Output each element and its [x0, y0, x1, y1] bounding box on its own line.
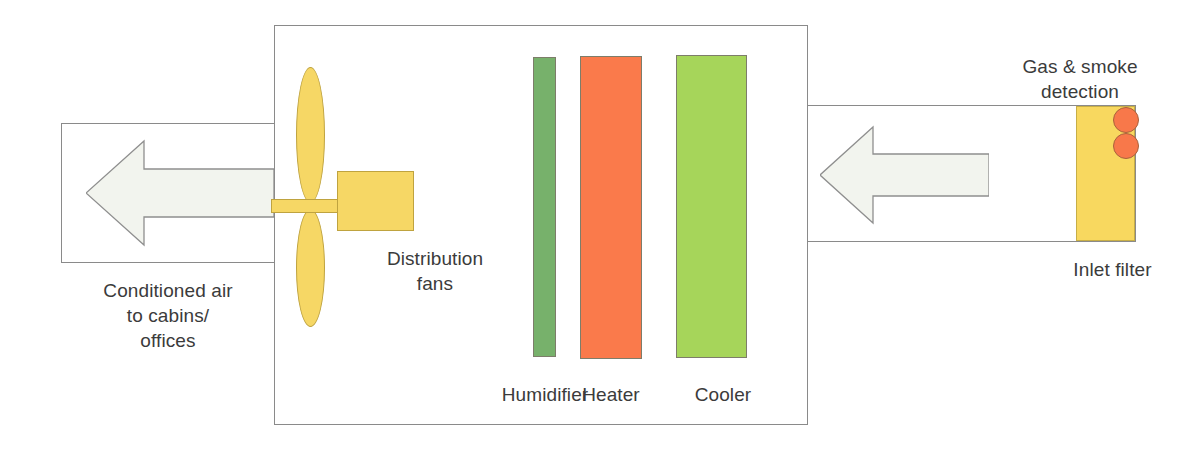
- label-cooler: Cooler: [668, 382, 778, 407]
- fan-motor: [337, 171, 414, 231]
- humidifier-element: [533, 57, 556, 357]
- smoke-detector-icon: [1113, 133, 1139, 159]
- label-gas-smoke-detection: Gas & smoke detection: [980, 54, 1180, 104]
- inlet-flow-arrow: [820, 125, 989, 225]
- outlet-flow-arrow: [86, 137, 274, 249]
- label-heater: Heater: [556, 382, 666, 407]
- fan-shaft: [271, 199, 341, 213]
- label-inlet-filter: Inlet filter: [1040, 257, 1185, 282]
- label-distribution-fans: Distribution fans: [355, 246, 515, 296]
- gas-detector-icon: [1113, 107, 1139, 133]
- fan-blade-upper-icon: [296, 67, 325, 203]
- diagram-canvas: Conditioned air to cabins/ offices Distr…: [0, 0, 1203, 450]
- heater-element: [580, 56, 642, 359]
- fan-blade-lower-icon: [296, 209, 325, 327]
- label-conditioned-air: Conditioned air to cabins/ offices: [58, 278, 278, 353]
- cooler-element: [676, 55, 747, 358]
